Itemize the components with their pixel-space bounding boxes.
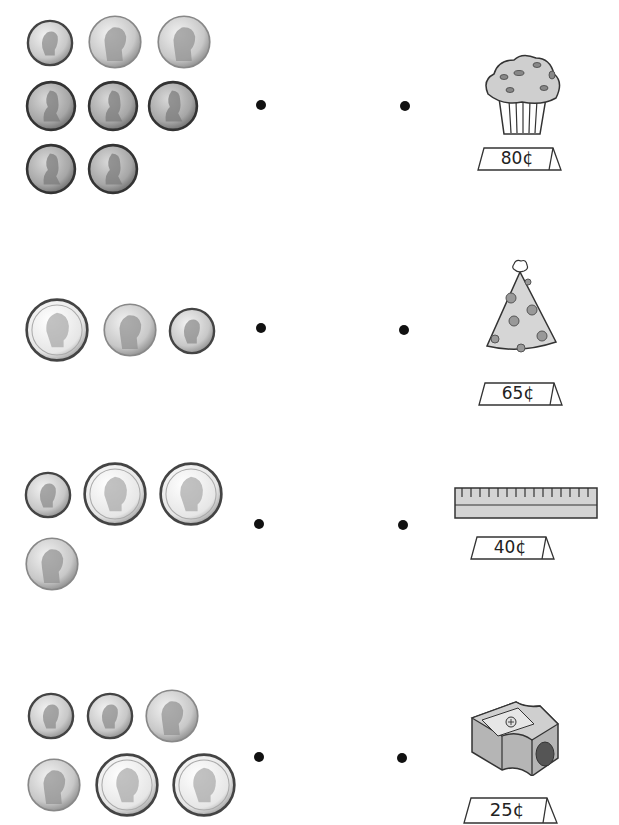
quarter-coin-icon <box>82 461 148 527</box>
dime-coin-icon <box>86 692 134 740</box>
nickel-coin-icon <box>144 688 200 744</box>
price-label: 80¢ <box>477 148 557 168</box>
match-dot-right-row-4[interactable] <box>397 753 407 763</box>
price-tag-row-1: 80¢ <box>477 145 563 173</box>
dime-coin-icon <box>26 19 74 67</box>
quarter-coin-icon <box>24 297 90 363</box>
penny-coin-icon <box>147 80 199 132</box>
ruler-icon <box>453 486 599 520</box>
dime-coin-icon <box>24 471 72 519</box>
price-tag-row-2: 65¢ <box>478 380 564 408</box>
match-dot-right-row-2[interactable] <box>399 325 409 335</box>
pencil-sharpener-icon <box>468 700 560 776</box>
quarter-coin-icon <box>158 461 224 527</box>
quarter-coin-icon <box>94 752 160 818</box>
match-dot-right-row-3[interactable] <box>398 520 408 530</box>
price-tag-row-3: 40¢ <box>470 534 556 562</box>
muffin-icon <box>482 50 562 136</box>
nickel-coin-icon <box>87 14 143 70</box>
dime-coin-icon <box>27 692 75 740</box>
nickel-coin-icon <box>26 757 82 813</box>
nickel-coin-icon <box>24 536 80 592</box>
match-dot-right-row-1[interactable] <box>400 101 410 111</box>
quarter-coin-icon <box>171 752 237 818</box>
party-hat-icon <box>484 258 560 354</box>
penny-coin-icon <box>87 80 139 132</box>
price-label: 65¢ <box>478 383 558 403</box>
price-tag-row-4: 25¢ <box>463 795 559 825</box>
price-label: 25¢ <box>463 799 551 820</box>
match-dot-left-row-1[interactable] <box>256 100 266 110</box>
nickel-coin-icon <box>102 302 158 358</box>
nickel-coin-icon <box>156 14 212 70</box>
penny-coin-icon <box>87 143 139 195</box>
dime-coin-icon <box>168 307 216 355</box>
match-dot-left-row-3[interactable] <box>254 519 264 529</box>
penny-coin-icon <box>25 143 77 195</box>
price-label: 40¢ <box>470 537 550 557</box>
penny-coin-icon <box>25 80 77 132</box>
match-dot-left-row-4[interactable] <box>254 752 264 762</box>
match-dot-left-row-2[interactable] <box>256 323 266 333</box>
